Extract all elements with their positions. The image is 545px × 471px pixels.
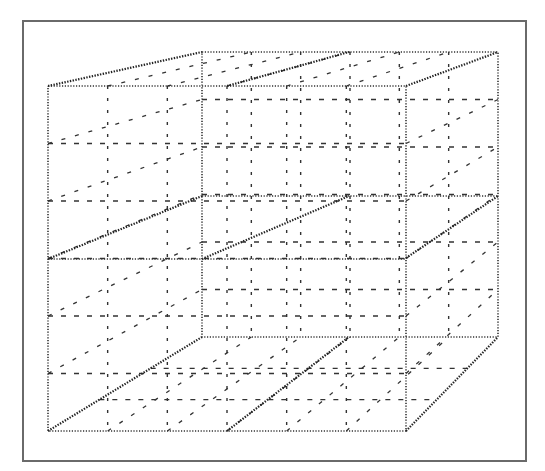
diagonal-top-middle xyxy=(227,52,349,86)
left-wall-depth-line xyxy=(48,100,202,144)
floor-depth-line xyxy=(346,337,448,431)
box-diagram xyxy=(0,0,545,471)
ceiling-depth-line xyxy=(287,52,400,86)
ceiling-depth-line xyxy=(227,52,350,86)
right-wall-depth-line xyxy=(406,195,498,259)
edge-top-right xyxy=(406,52,498,86)
floor-depth-line xyxy=(108,337,252,431)
left-wall-depth-line xyxy=(48,242,202,316)
diagonal-center-middle xyxy=(202,196,349,259)
ceiling-depth-line xyxy=(167,52,300,86)
floor-depth-line xyxy=(287,337,400,431)
right-wall-depth-line xyxy=(406,290,498,374)
diagonal-left-middle xyxy=(48,196,202,259)
diagonal-floor-middle xyxy=(227,337,349,431)
left-wall-depth-line xyxy=(48,290,202,374)
floor-depth-line xyxy=(167,337,300,431)
edge-bottom-right xyxy=(406,337,498,431)
right-wall-depth-line xyxy=(406,242,498,316)
interior-grid xyxy=(48,52,498,431)
right-wall-depth-line xyxy=(406,147,498,201)
ceiling-depth-line xyxy=(346,52,448,86)
left-wall-depth-line xyxy=(48,147,202,201)
right-wall-depth-line xyxy=(406,100,498,144)
